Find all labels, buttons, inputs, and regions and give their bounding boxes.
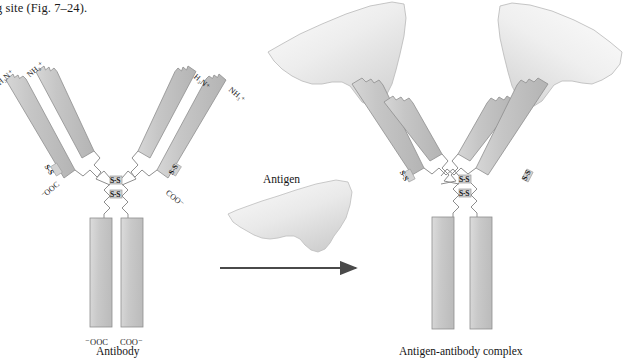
ss-hinge-lower: S-S xyxy=(110,190,120,199)
top-body-text: g site (Fig. 7–24). xyxy=(0,1,87,16)
free-antigen-shape xyxy=(228,180,352,252)
antibody-right-group xyxy=(268,2,622,329)
caption-antibody: Antibody xyxy=(96,345,139,357)
right-fc-bar-left xyxy=(432,217,454,329)
ss-hinge-upper: S-S xyxy=(110,176,120,185)
right-fc-bar-right xyxy=(470,217,492,329)
figure-graphics xyxy=(0,0,623,363)
ss-hinge-lower-complex: S-S xyxy=(459,189,469,198)
left-fc-bar-right xyxy=(121,218,143,327)
ss-hinge-upper-complex: S-S xyxy=(459,175,469,184)
antibody-figure: g site (Fig. 7–24). H₃N⁺ NH₃⁺ H₃N⁺ NH₃⁺ … xyxy=(0,0,623,363)
antigen-label: Antigen xyxy=(263,173,300,185)
free-antigen-group xyxy=(228,180,352,252)
caption-antigen-antibody-complex: Antigen-antibody complex xyxy=(399,345,523,357)
left-fc-bar-left xyxy=(90,218,112,327)
